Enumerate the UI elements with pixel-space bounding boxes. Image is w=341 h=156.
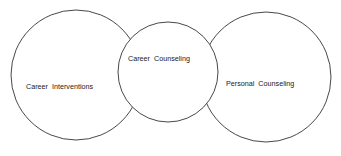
venn-diagram: Career Interventions Personal Counseling…	[0, 0, 341, 156]
circle-career-counseling	[118, 22, 218, 122]
circle-personal-counseling	[201, 12, 331, 142]
label-personal-counseling: Personal Counseling	[226, 79, 294, 88]
label-career-interventions: Career Interventions	[26, 82, 94, 91]
label-career-counseling: Career Counseling	[128, 54, 190, 63]
